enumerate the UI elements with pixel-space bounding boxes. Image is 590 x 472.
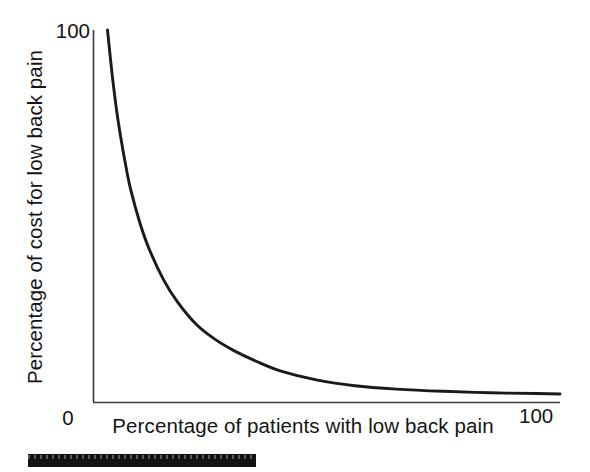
y-axis-title: Percentage of cost for low back pain — [23, 32, 47, 402]
x-tick-label-0: 0 — [60, 406, 76, 430]
x-tick-label-100: 100 — [519, 404, 563, 428]
data-curve-low-back-pain-cost — [108, 30, 561, 394]
chart-figure: Percentage of cost for low back pain Per… — [0, 0, 590, 472]
x-axis-title: Percentage of patients with low back pai… — [93, 414, 513, 438]
chart-plot-area — [0, 0, 590, 472]
scan-artifact-bar — [28, 454, 256, 467]
y-tick-label-100: 100 — [52, 19, 90, 43]
